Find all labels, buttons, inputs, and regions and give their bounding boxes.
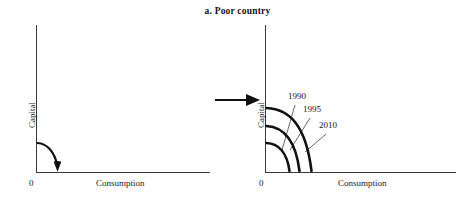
ppf-curve-1995 [267, 126, 300, 171]
left-x-axis-label: Consumption [96, 178, 145, 188]
left-origin-label: 0 [29, 178, 34, 188]
ppf-curve-1990 [267, 143, 290, 171]
curve-label-1995: 1995 [303, 104, 321, 114]
curve-label-1990: 1990 [288, 91, 306, 101]
right-y-axis-label: Capital [256, 102, 266, 128]
curve-label-2010: 2010 [319, 120, 337, 130]
right-x-axis-label: Consumption [338, 178, 387, 188]
left-y-axis-label: Capital [27, 102, 37, 128]
right-origin-label: 0 [259, 178, 264, 188]
right-panel-plot [238, 0, 475, 203]
ppf-endpoint-dot [55, 161, 60, 166]
figure-container: a. Poor country Capital 0 Consumption [0, 0, 475, 203]
